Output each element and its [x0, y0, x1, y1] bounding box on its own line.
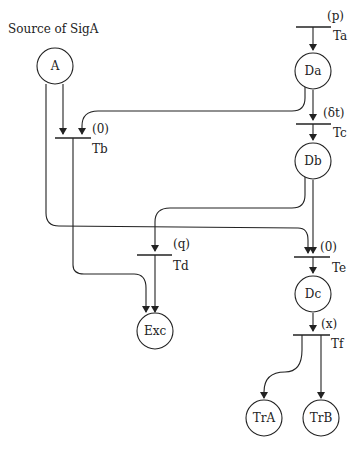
te-name: Te [332, 261, 346, 275]
place-dc[interactable]: Dc [295, 276, 331, 312]
place-exc[interactable]: Exc [137, 313, 173, 349]
tb-name: Tb [92, 142, 108, 156]
td-delay: (q) [173, 237, 190, 251]
place-db-label: Db [304, 154, 322, 168]
place-tra[interactable]: TrA [246, 400, 282, 436]
tf-delay: (x) [321, 317, 337, 331]
place-trb-label: TrB [310, 411, 333, 425]
source-title: Source of SigA [8, 22, 99, 36]
tc-name: Tc [333, 126, 347, 140]
ta-delay: (p) [327, 9, 344, 23]
place-tra-label: TrA [253, 411, 276, 425]
place-da[interactable]: Da [295, 53, 331, 89]
edge-tf-tra [264, 335, 302, 398]
transition-td[interactable]: (q) Td [137, 237, 190, 273]
transition-tc[interactable]: (δt) Tc [296, 106, 347, 140]
petri-net-diagram: Source of SigA (p) Ta (0) Tb (δt) Tc (q [0, 0, 364, 454]
transition-te[interactable]: (0) Te [294, 240, 346, 275]
tb-delay: (0) [92, 122, 109, 136]
transition-tf[interactable]: (x) Tf [293, 317, 345, 351]
place-dc-label: Dc [305, 287, 322, 301]
place-trb[interactable]: TrB [303, 400, 339, 436]
tc-delay: (δt) [323, 106, 344, 120]
ta-name: Ta [333, 29, 347, 43]
td-name: Td [173, 259, 189, 273]
place-da-label: Da [305, 64, 322, 78]
transition-ta[interactable]: (p) Ta [296, 9, 347, 43]
tf-name: Tf [331, 337, 345, 351]
place-exc-label: Exc [144, 324, 167, 338]
edge-tb-exc [73, 138, 146, 312]
te-delay: (0) [320, 240, 337, 254]
place-db[interactable]: Db [295, 143, 331, 179]
place-a[interactable]: A [37, 48, 73, 84]
edge-da-tb [82, 86, 305, 134]
edge-a-te [46, 84, 308, 253]
place-a-label: A [50, 59, 60, 73]
